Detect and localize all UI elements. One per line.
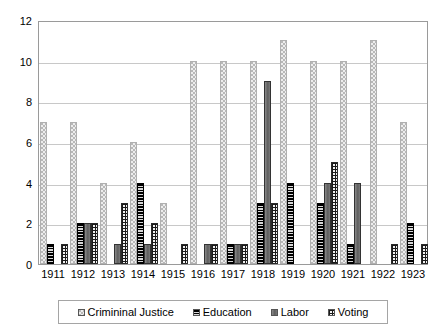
bar-group-inner	[279, 22, 309, 264]
y-tick-label: 0	[26, 260, 32, 270]
x-tick-label: 1918	[248, 268, 278, 280]
y-tick-label: 12	[20, 16, 32, 26]
bar-group	[219, 22, 249, 264]
x-tick-label: 1913	[98, 268, 128, 280]
bar-group-inner	[399, 22, 429, 264]
bar[interactable]	[77, 223, 84, 264]
bar[interactable]	[370, 40, 377, 264]
bar-group	[249, 22, 279, 264]
bar[interactable]	[61, 244, 68, 264]
bar[interactable]	[287, 183, 294, 264]
bars-layer	[39, 22, 427, 264]
bar-group	[279, 22, 309, 264]
bar[interactable]	[331, 162, 338, 264]
plot-wrapper: 024681012 191119121913191419151916191719…	[0, 0, 440, 292]
bar[interactable]	[151, 223, 158, 264]
x-tick-label: 1922	[368, 268, 398, 280]
bar[interactable]	[84, 223, 91, 264]
bar-group	[339, 22, 369, 264]
bar[interactable]	[421, 244, 428, 264]
bar[interactable]	[347, 244, 354, 264]
bar[interactable]	[91, 223, 98, 264]
bar-group-inner	[339, 22, 369, 264]
legend-item-voting[interactable]: Voting	[328, 307, 369, 318]
bar[interactable]	[241, 244, 248, 264]
legend-label: Labor	[281, 307, 309, 318]
bar-group	[369, 22, 399, 264]
bar-group	[159, 22, 189, 264]
x-tick-label: 1920	[308, 268, 338, 280]
bar-group-inner	[309, 22, 339, 264]
bar-group	[99, 22, 129, 264]
x-tick-label: 1914	[128, 268, 158, 280]
bar-group	[129, 22, 159, 264]
bar[interactable]	[114, 244, 121, 264]
y-axis-labels: 024681012	[0, 0, 36, 292]
bar[interactable]	[234, 244, 241, 264]
bar[interactable]	[130, 142, 137, 264]
legend-item-labor[interactable]: Labor	[271, 307, 309, 318]
bar[interactable]	[317, 203, 324, 264]
bar[interactable]	[310, 61, 317, 264]
bar[interactable]	[264, 81, 271, 264]
bar[interactable]	[160, 203, 167, 264]
bar-group-inner	[69, 22, 99, 264]
bar[interactable]	[354, 183, 361, 264]
bar[interactable]	[407, 223, 414, 264]
y-tick-label: 6	[26, 138, 32, 148]
legend-label: Crimininal Justice	[88, 307, 174, 318]
bar[interactable]	[144, 244, 151, 264]
bar[interactable]	[190, 61, 197, 264]
bar-group-inner	[189, 22, 219, 264]
x-tick-label: 1919	[278, 268, 308, 280]
bar[interactable]	[211, 244, 218, 264]
x-axis-labels: 1911191219131914191519161917191819191920…	[38, 266, 428, 286]
x-tick-label: 1923	[398, 268, 428, 280]
bar[interactable]	[40, 122, 47, 264]
bar-group	[69, 22, 99, 264]
y-tick-label: 4	[26, 179, 32, 189]
legend-swatch-icon	[328, 309, 335, 316]
bar[interactable]	[391, 244, 398, 264]
bar[interactable]	[100, 183, 107, 264]
x-tick-label: 1912	[68, 268, 98, 280]
bar[interactable]	[340, 61, 347, 264]
bar-group	[189, 22, 219, 264]
bar-group-inner	[99, 22, 129, 264]
bar-group-inner	[159, 22, 189, 264]
bar-group-inner	[129, 22, 159, 264]
x-tick-label: 1916	[188, 268, 218, 280]
legend-label: Voting	[338, 307, 369, 318]
x-tick-label: 1921	[338, 268, 368, 280]
bar[interactable]	[47, 244, 54, 264]
bar-group-inner	[219, 22, 249, 264]
legend-swatch-icon	[193, 309, 200, 316]
plot-area	[38, 21, 428, 265]
x-tick-label: 1917	[218, 268, 248, 280]
bar[interactable]	[400, 122, 407, 264]
bar[interactable]	[271, 203, 278, 264]
bar-chart: 024681012 191119121913191419151916191719…	[0, 0, 440, 334]
bar[interactable]	[280, 40, 287, 264]
bar[interactable]	[70, 122, 77, 264]
bar[interactable]	[121, 203, 128, 264]
legend-swatch-icon	[78, 309, 85, 316]
bar-group-inner	[249, 22, 279, 264]
bar[interactable]	[227, 244, 234, 264]
y-tick-label: 8	[26, 97, 32, 107]
bar[interactable]	[220, 61, 227, 264]
bar[interactable]	[257, 203, 264, 264]
bar-group	[309, 22, 339, 264]
bar-group-inner	[369, 22, 399, 264]
bar[interactable]	[204, 244, 211, 264]
bar[interactable]	[181, 244, 188, 264]
bar-group	[399, 22, 429, 264]
bar[interactable]	[250, 61, 257, 264]
bar[interactable]	[137, 183, 144, 264]
bar[interactable]	[324, 183, 331, 264]
legend-item-education[interactable]: Education	[193, 307, 252, 318]
bar-group	[39, 22, 69, 264]
x-tick-label: 1915	[158, 268, 188, 280]
chart-legend: Crimininal JusticeEducationLaborVoting	[58, 300, 388, 324]
legend-item-criminal-justice[interactable]: Crimininal Justice	[78, 307, 174, 318]
